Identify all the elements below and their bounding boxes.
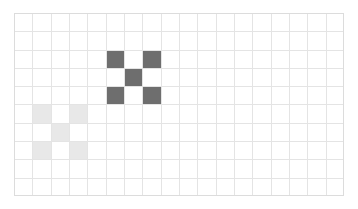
grid-cell-empty[interactable] bbox=[252, 31, 270, 49]
grid-cell-empty[interactable] bbox=[326, 141, 344, 159]
grid-cell-empty[interactable] bbox=[234, 123, 252, 141]
grid-cell-empty[interactable] bbox=[161, 141, 179, 159]
grid-cell-empty[interactable] bbox=[69, 159, 87, 177]
grid-cell-empty[interactable] bbox=[179, 68, 197, 86]
grid-cell-empty[interactable] bbox=[14, 50, 32, 68]
grid-cell-empty[interactable] bbox=[216, 159, 234, 177]
grid-cell-empty[interactable] bbox=[216, 123, 234, 141]
grid-cell-empty[interactable] bbox=[307, 123, 325, 141]
grid-cell-empty[interactable] bbox=[307, 159, 325, 177]
grid-cell-filled[interactable] bbox=[142, 86, 160, 104]
grid-cell-empty[interactable] bbox=[106, 104, 124, 122]
grid-cell-empty[interactable] bbox=[197, 123, 215, 141]
grid-cell-empty[interactable] bbox=[51, 86, 69, 104]
grid-cell-empty[interactable] bbox=[161, 159, 179, 177]
grid-cell-empty[interactable] bbox=[69, 68, 87, 86]
grid-cell-empty[interactable] bbox=[32, 13, 50, 31]
grid-cell-empty[interactable] bbox=[32, 86, 50, 104]
grid-cell-empty[interactable] bbox=[271, 141, 289, 159]
grid-cell-empty[interactable] bbox=[124, 104, 142, 122]
grid-cell-empty[interactable] bbox=[307, 104, 325, 122]
grid-cell-empty[interactable] bbox=[252, 50, 270, 68]
grid-cell-empty[interactable] bbox=[142, 13, 160, 31]
grid-cell-empty[interactable] bbox=[32, 123, 50, 141]
grid-cell-empty[interactable] bbox=[326, 159, 344, 177]
grid-cell-empty[interactable] bbox=[161, 178, 179, 196]
grid-cell-empty[interactable] bbox=[289, 86, 307, 104]
grid-cell-empty[interactable] bbox=[271, 123, 289, 141]
grid-cell-filled[interactable] bbox=[69, 104, 87, 122]
grid-cell-empty[interactable] bbox=[14, 123, 32, 141]
grid-cell-empty[interactable] bbox=[216, 50, 234, 68]
grid-cell-empty[interactable] bbox=[124, 13, 142, 31]
grid-cell-empty[interactable] bbox=[87, 50, 105, 68]
grid-cell-empty[interactable] bbox=[271, 86, 289, 104]
grid-cell-empty[interactable] bbox=[216, 141, 234, 159]
grid-cell-empty[interactable] bbox=[106, 123, 124, 141]
grid-cell-empty[interactable] bbox=[14, 68, 32, 86]
grid-cell-empty[interactable] bbox=[234, 104, 252, 122]
grid-cell-empty[interactable] bbox=[326, 68, 344, 86]
grid-cell-empty[interactable] bbox=[307, 13, 325, 31]
grid-cell-filled[interactable] bbox=[124, 68, 142, 86]
grid-cell-empty[interactable] bbox=[87, 13, 105, 31]
grid-cell-empty[interactable] bbox=[124, 141, 142, 159]
grid-cell-empty[interactable] bbox=[271, 159, 289, 177]
grid-cell-empty[interactable] bbox=[197, 86, 215, 104]
grid-cell-empty[interactable] bbox=[252, 104, 270, 122]
grid-cell-empty[interactable] bbox=[124, 31, 142, 49]
grid-cell-empty[interactable] bbox=[32, 159, 50, 177]
grid-cell-empty[interactable] bbox=[289, 13, 307, 31]
grid-cell-empty[interactable] bbox=[14, 178, 32, 196]
grid-cell-empty[interactable] bbox=[106, 141, 124, 159]
grid-cell-empty[interactable] bbox=[216, 13, 234, 31]
grid-cell-empty[interactable] bbox=[106, 178, 124, 196]
grid-cell-empty[interactable] bbox=[326, 123, 344, 141]
grid-cell-empty[interactable] bbox=[179, 104, 197, 122]
grid-cell-empty[interactable] bbox=[326, 31, 344, 49]
grid-cell-empty[interactable] bbox=[179, 31, 197, 49]
grid-cell-empty[interactable] bbox=[69, 50, 87, 68]
grid-cell-empty[interactable] bbox=[87, 31, 105, 49]
grid-cell-empty[interactable] bbox=[69, 86, 87, 104]
grid-cell-empty[interactable] bbox=[179, 141, 197, 159]
grid-cell-empty[interactable] bbox=[124, 178, 142, 196]
grid-cell-empty[interactable] bbox=[307, 178, 325, 196]
grid-cell-empty[interactable] bbox=[252, 141, 270, 159]
grid-cell-empty[interactable] bbox=[289, 141, 307, 159]
grid-cell-empty[interactable] bbox=[124, 123, 142, 141]
grid-cell-empty[interactable] bbox=[32, 178, 50, 196]
grid-cell-empty[interactable] bbox=[252, 13, 270, 31]
grid-cell-empty[interactable] bbox=[161, 31, 179, 49]
grid-cell-empty[interactable] bbox=[289, 178, 307, 196]
grid-cell-empty[interactable] bbox=[252, 123, 270, 141]
grid-cell-empty[interactable] bbox=[216, 178, 234, 196]
grid-cell-empty[interactable] bbox=[51, 141, 69, 159]
grid-cell-empty[interactable] bbox=[197, 178, 215, 196]
grid-cell-filled[interactable] bbox=[51, 123, 69, 141]
grid-cell-empty[interactable] bbox=[179, 13, 197, 31]
grid-cell-empty[interactable] bbox=[142, 159, 160, 177]
grid-cell-empty[interactable] bbox=[289, 31, 307, 49]
grid-cell-empty[interactable] bbox=[69, 13, 87, 31]
grid-cell-empty[interactable] bbox=[124, 159, 142, 177]
grid-cell-empty[interactable] bbox=[234, 31, 252, 49]
grid-cell-empty[interactable] bbox=[197, 31, 215, 49]
grid-cell-filled[interactable] bbox=[142, 50, 160, 68]
grid-cell-empty[interactable] bbox=[161, 123, 179, 141]
grid-cell-empty[interactable] bbox=[14, 159, 32, 177]
grid-cell-empty[interactable] bbox=[51, 13, 69, 31]
grid-cell-empty[interactable] bbox=[142, 68, 160, 86]
grid-cell-filled[interactable] bbox=[69, 141, 87, 159]
grid-cell-empty[interactable] bbox=[14, 86, 32, 104]
grid-cell-empty[interactable] bbox=[51, 68, 69, 86]
grid-cell-filled[interactable] bbox=[106, 86, 124, 104]
grid-cell-empty[interactable] bbox=[179, 50, 197, 68]
grid-cell-empty[interactable] bbox=[14, 31, 32, 49]
grid-cell-empty[interactable] bbox=[252, 159, 270, 177]
grid-cell-empty[interactable] bbox=[69, 178, 87, 196]
grid-cell-empty[interactable] bbox=[271, 68, 289, 86]
grid-cell-empty[interactable] bbox=[87, 159, 105, 177]
grid-cell-empty[interactable] bbox=[234, 50, 252, 68]
grid-cell-empty[interactable] bbox=[106, 159, 124, 177]
